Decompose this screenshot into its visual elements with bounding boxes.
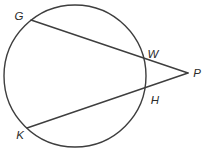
point-label-K: K [16,129,25,141]
secant-line-KP [27,73,188,128]
diagram-svg: G W H K P [0,0,208,163]
circle-outline [4,5,146,147]
point-label-H: H [151,94,160,106]
secant-line-GP [31,20,188,73]
geometry-diagram: G W H K P [0,0,208,163]
point-label-W: W [148,48,160,60]
point-label-G: G [15,10,24,22]
point-label-P: P [193,67,201,79]
